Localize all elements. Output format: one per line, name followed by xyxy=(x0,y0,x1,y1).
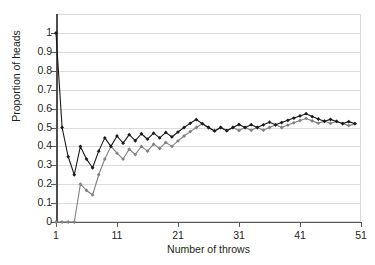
series-line xyxy=(56,118,355,222)
data-point-marker xyxy=(341,122,345,126)
data-point-marker xyxy=(329,117,333,121)
data-point-marker xyxy=(237,123,241,127)
data-point-marker xyxy=(262,123,266,127)
y-axis-title: Proportion of heads xyxy=(10,16,22,136)
coin-toss-line-chart: 00.10.20.30.40.50.60.70.80.91 1112131415… xyxy=(0,0,375,265)
data-point-marker xyxy=(280,121,284,125)
data-point-marker xyxy=(79,145,83,149)
data-point-marker xyxy=(72,220,76,224)
data-point-marker xyxy=(280,126,284,130)
data-point-marker xyxy=(292,121,296,125)
data-point-marker xyxy=(304,112,308,116)
data-point-marker xyxy=(316,117,320,121)
data-point-marker xyxy=(103,157,107,161)
data-point-marker xyxy=(316,121,320,125)
x-axis-title: Number of throws xyxy=(56,243,361,255)
data-series-1 xyxy=(54,31,357,177)
data-point-marker xyxy=(274,123,278,127)
data-point-marker xyxy=(310,119,314,123)
data-point-marker xyxy=(353,122,357,126)
data-point-marker xyxy=(268,120,272,124)
data-point-marker xyxy=(310,115,314,119)
data-series-2 xyxy=(54,117,357,224)
data-point-marker xyxy=(249,128,253,132)
data-point-marker xyxy=(255,126,259,130)
data-point-marker xyxy=(225,129,229,133)
data-point-marker xyxy=(286,123,290,127)
data-point-marker xyxy=(335,120,339,124)
series-line xyxy=(56,33,355,175)
data-point-marker xyxy=(262,128,266,132)
data-point-marker xyxy=(66,155,70,159)
data-point-marker xyxy=(237,129,241,133)
data-point-marker xyxy=(97,149,101,153)
data-point-marker xyxy=(268,126,272,130)
data-point-marker xyxy=(60,126,64,130)
data-point-marker xyxy=(286,118,290,122)
data-point-marker xyxy=(304,117,308,121)
data-point-marker xyxy=(298,114,302,118)
data-point-marker xyxy=(298,119,302,123)
data-point-marker xyxy=(249,123,253,127)
data-series-group xyxy=(0,0,375,265)
data-point-marker xyxy=(66,220,70,224)
data-point-marker xyxy=(347,120,351,124)
data-point-marker xyxy=(72,173,76,177)
data-point-marker xyxy=(54,220,58,224)
data-point-marker xyxy=(329,121,333,125)
data-point-marker xyxy=(60,220,64,224)
data-point-marker xyxy=(323,119,327,123)
data-point-marker xyxy=(292,116,296,120)
data-point-marker xyxy=(97,173,101,177)
data-point-marker xyxy=(231,126,235,130)
data-point-marker xyxy=(243,126,247,130)
data-point-marker xyxy=(54,31,58,35)
data-point-marker xyxy=(347,124,351,128)
